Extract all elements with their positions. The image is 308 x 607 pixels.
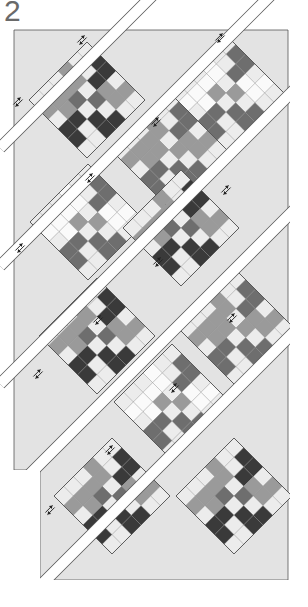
quilt-assembly-diagram (0, 0, 308, 607)
